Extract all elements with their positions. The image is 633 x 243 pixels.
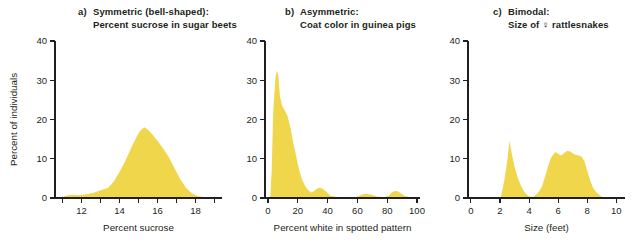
y-axis-tick-label: 0 (252, 192, 257, 203)
y-axis-tick-label: 10 (36, 153, 47, 164)
y-axis-tick-label: 20 (246, 114, 257, 125)
x-axis-tick-label: 18 (190, 205, 201, 216)
figure-container: a) Symmetric (bell-shaped): Percent sucr… (0, 0, 633, 243)
y-axis-tick-label: 10 (246, 153, 257, 164)
x-axis-tick-label: 14 (114, 205, 125, 216)
panel-b-chart: 010203040020406080100Percent white in sp… (210, 0, 425, 243)
y-axis-tick-label: 0 (42, 192, 47, 203)
y-axis-tick-label: 20 (36, 114, 47, 125)
panel-c: c) Bimodal: Size of ♀ rattlesnakes 01020… (420, 0, 633, 243)
y-axis-tick-label: 40 (246, 35, 257, 46)
x-axis-tick-label: 10 (611, 205, 622, 216)
y-axis-tick-label: 20 (449, 114, 460, 125)
x-axis-tick-label: 20 (292, 205, 303, 216)
x-axis-tick-label: 4 (526, 205, 531, 216)
panel-a: a) Symmetric (bell-shaped): Percent sucr… (0, 0, 223, 243)
y-axis-title: Percent of individuals (8, 73, 19, 166)
x-axis-tick-label: 60 (352, 205, 363, 216)
y-axis-tick-label: 0 (455, 192, 460, 203)
y-axis-tick-label: 40 (449, 35, 460, 46)
y-axis-tick-label: 40 (36, 35, 47, 46)
panel-b: b) Asymmetric: Coat color in guinea pigs… (210, 0, 425, 243)
x-axis-tick-label: 16 (152, 205, 163, 216)
distribution-curve (270, 70, 417, 198)
x-axis-title: Percent sucrose (103, 222, 174, 233)
x-axis-tick-label: 12 (76, 205, 87, 216)
distribution-curve (55, 127, 222, 198)
x-axis-tick-label: 8 (585, 205, 590, 216)
x-axis-title: Size (feet) (524, 222, 569, 233)
x-axis-tick-label: 0 (468, 205, 473, 216)
x-axis-tick-label: 2 (497, 205, 502, 216)
x-axis-tick-label: 0 (265, 205, 270, 216)
x-axis-tick-label: 40 (322, 205, 333, 216)
y-axis-tick-label: 10 (449, 153, 460, 164)
y-axis-tick-label: 30 (246, 75, 257, 86)
distribution-curve (501, 141, 605, 198)
y-axis-tick-label: 30 (36, 75, 47, 86)
x-axis-tick-label: 80 (382, 205, 393, 216)
panel-a-chart: 01020304012141618Percent sucrosePercent … (0, 0, 223, 243)
panel-c-chart: 0102030400246810Size (feet) (420, 0, 633, 243)
x-axis-title: Percent white in spotted pattern (274, 222, 412, 233)
x-axis-tick-label: 6 (555, 205, 560, 216)
y-axis-tick-label: 30 (449, 75, 460, 86)
